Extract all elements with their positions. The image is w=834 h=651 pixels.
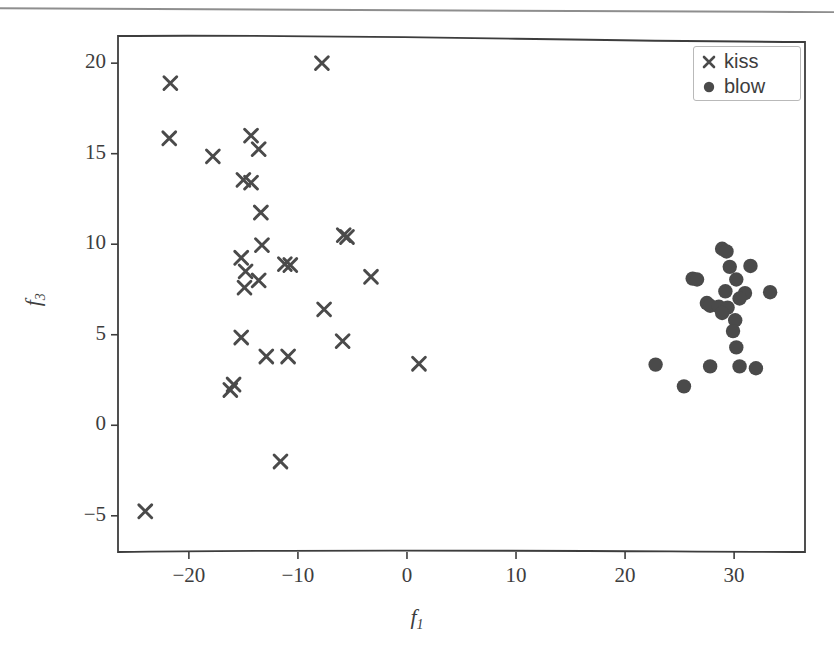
data-point-kiss — [256, 239, 269, 252]
y-tick-label: −5 — [20, 502, 106, 527]
x-marker-icon — [694, 53, 724, 71]
data-point-blow — [677, 379, 691, 393]
data-point-blow — [718, 284, 732, 298]
data-point-kiss — [252, 143, 265, 156]
data-point-kiss — [318, 303, 331, 316]
legend[interactable]: kiss blow — [693, 46, 801, 101]
series-kiss-points — [139, 57, 426, 518]
data-point-kiss — [316, 57, 329, 70]
data-point-blow — [743, 259, 757, 273]
x-tick-label: 0 — [367, 563, 447, 588]
x-tick-label: 20 — [585, 563, 665, 588]
series-blow-points — [648, 242, 777, 394]
data-point-blow — [729, 340, 743, 354]
data-point-blow — [703, 359, 717, 373]
data-point-kiss — [238, 281, 251, 294]
data-point-blow — [726, 324, 740, 338]
y-tick-label: 5 — [20, 321, 106, 346]
data-point-blow — [690, 272, 704, 286]
data-point-kiss — [139, 505, 152, 518]
legend-label-kiss: kiss — [724, 50, 758, 73]
data-point-kiss — [239, 265, 252, 278]
data-point-kiss — [260, 350, 273, 363]
axes-frame — [118, 36, 805, 552]
x-tick-label: −20 — [149, 563, 229, 588]
data-point-kiss — [254, 206, 267, 219]
data-point-blow — [723, 260, 737, 274]
data-point-blow — [732, 291, 746, 305]
data-point-blow — [749, 361, 763, 375]
data-point-kiss — [235, 251, 248, 264]
y-tick-label: 15 — [20, 140, 106, 165]
figure-page: −20−10010203020151050−5 f1 f3 kiss blow — [0, 0, 834, 651]
data-point-kiss — [252, 274, 265, 287]
data-point-kiss — [224, 384, 237, 397]
legend-entry-kiss[interactable]: kiss — [694, 49, 802, 74]
x-axis-title: f1 — [410, 604, 423, 633]
x-tick-label: 10 — [476, 563, 556, 588]
y-axis-title: f3 — [20, 293, 49, 306]
circle-marker-icon — [694, 78, 724, 96]
data-point-kiss — [274, 455, 287, 468]
data-point-kiss — [282, 350, 295, 363]
x-tick-label: 30 — [694, 563, 774, 588]
data-point-kiss — [365, 270, 378, 283]
data-point-blow — [732, 359, 746, 373]
axis-ticks — [111, 63, 734, 559]
data-point-kiss — [413, 357, 426, 370]
data-point-blow — [763, 285, 777, 299]
data-point-kiss — [164, 77, 177, 90]
data-point-blow — [729, 272, 743, 286]
data-point-blow — [719, 244, 733, 258]
data-point-kiss — [235, 331, 248, 344]
y-tick-label: 10 — [20, 230, 106, 255]
data-point-blow — [715, 306, 729, 320]
y-tick-label: 0 — [20, 411, 106, 436]
legend-label-blow: blow — [724, 75, 765, 98]
data-point-kiss — [245, 129, 258, 142]
x-tick-label: −10 — [258, 563, 338, 588]
data-point-kiss — [206, 150, 219, 163]
y-tick-label: 20 — [20, 49, 106, 74]
data-point-kiss — [336, 335, 349, 348]
legend-entry-blow[interactable]: blow — [694, 74, 802, 99]
data-point-kiss — [163, 132, 176, 145]
data-point-blow — [648, 357, 662, 371]
